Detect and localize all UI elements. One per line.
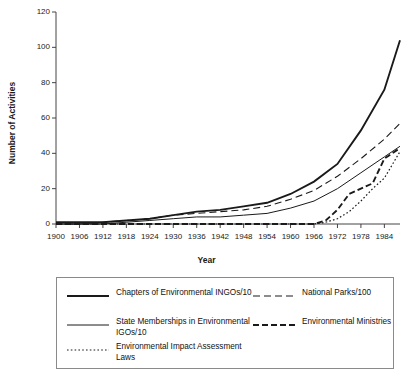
legend-line-sample: [67, 317, 109, 329]
series-line: [56, 146, 400, 224]
chart-canvas: [0, 0, 413, 270]
legend-line-sample: [67, 288, 109, 300]
plot-area: Number of Activities Year 02040608010012…: [0, 0, 413, 270]
legend-item-label: Chapters of Environmental INGOs/10: [116, 287, 252, 298]
legend-line-sample: [253, 288, 295, 300]
legend-item[interactable]: National Parks/100: [253, 287, 393, 300]
legend-item[interactable]: Environmental Ministries: [253, 316, 393, 329]
legend-item[interactable]: Environmental Impact Assessment Laws: [67, 341, 257, 363]
legend-line-sample: [253, 317, 295, 329]
series-lines: [56, 40, 400, 224]
legend-line-sample: [67, 342, 109, 354]
legend-item-label: National Parks/100: [302, 287, 371, 298]
legend-items: Chapters of Environmental INGOs/10Nation…: [57, 278, 393, 368]
legend-item-label: State Memberships in Environmental IGOs/…: [116, 316, 257, 338]
legend-box: Chapters of Environmental INGOs/10Nation…: [56, 277, 394, 369]
legend-item-label: Environmental Impact Assessment Laws: [116, 341, 257, 363]
series-line: [56, 148, 400, 224]
legend-item[interactable]: State Memberships in Environmental IGOs/…: [67, 316, 257, 338]
axis-lines: [52, 12, 400, 228]
series-line: [56, 152, 400, 224]
series-line: [56, 40, 400, 222]
chart-root: Number of Activities Year 02040608010012…: [0, 0, 413, 382]
legend-item-label: Environmental Ministries: [302, 316, 391, 327]
legend-item[interactable]: Chapters of Environmental INGOs/10: [67, 287, 257, 300]
